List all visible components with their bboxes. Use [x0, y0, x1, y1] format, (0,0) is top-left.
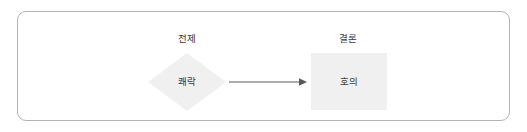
node-premise-label: 쾌락: [148, 53, 226, 111]
column-label-conclusion: 결론: [339, 33, 357, 45]
arrow-right-icon: [229, 71, 311, 93]
diagram-frame: 전제 결론 쾌락 호의: [17, 11, 510, 121]
node-conclusion-label: 호의: [311, 53, 387, 110]
column-label-premise: 전제: [178, 33, 196, 45]
diagram-canvas: 전제 결론 쾌락 호의: [0, 0, 527, 132]
node-conclusion[interactable]: 호의: [311, 53, 387, 110]
arrow-head: [299, 78, 307, 86]
node-premise[interactable]: 쾌락: [148, 53, 226, 111]
